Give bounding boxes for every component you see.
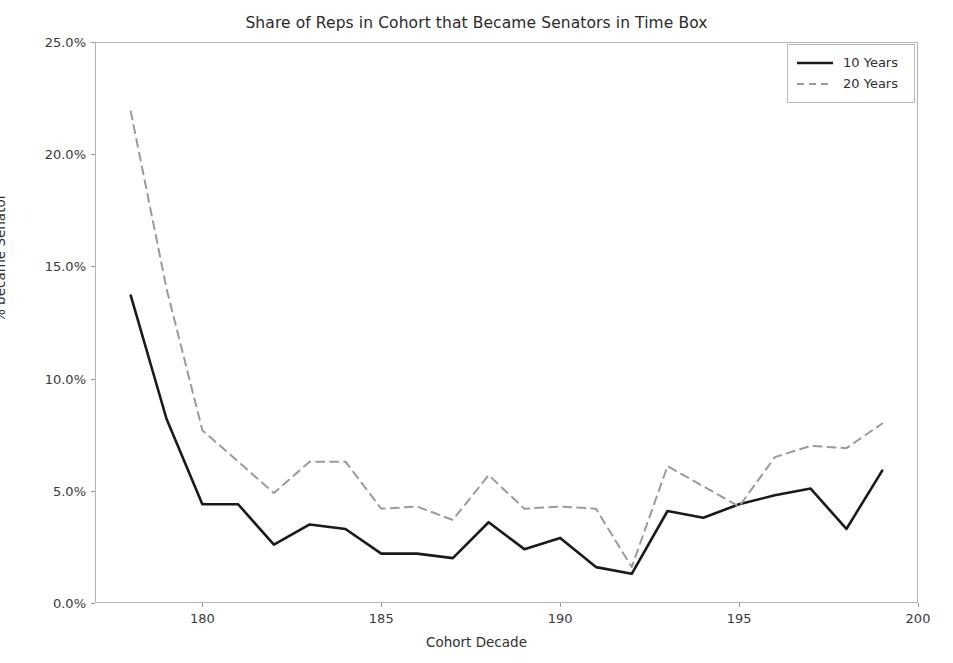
chart-legend: 10 Years 20 Years <box>787 44 915 103</box>
series-line-20-years <box>131 112 882 568</box>
y-tick-mark <box>91 154 95 155</box>
x-tick-mark <box>560 603 561 607</box>
legend-item-20-years[interactable]: 20 Years <box>796 73 906 94</box>
series-line-10-years <box>131 296 882 574</box>
y-tick-label: 10.0% <box>45 371 86 386</box>
y-tick-mark <box>91 266 95 267</box>
y-tick-label: 20.0% <box>45 147 86 162</box>
x-tick-label: 185 <box>369 611 394 626</box>
legend-label-20-years: 20 Years <box>843 76 898 91</box>
x-tick-label: 190 <box>548 611 573 626</box>
y-tick-mark <box>91 491 95 492</box>
plot-area <box>95 42 918 603</box>
x-tick-label: 180 <box>190 611 215 626</box>
y-tick-label: 0.0% <box>53 596 86 611</box>
series-lines <box>95 42 918 603</box>
legend-swatch-solid-icon <box>796 58 834 68</box>
y-axis-label: % became Senator <box>0 194 8 322</box>
x-tick-mark <box>381 603 382 607</box>
x-tick-label: 200 <box>906 611 931 626</box>
x-axis-label: Cohort Decade <box>0 634 953 650</box>
y-tick-label: 5.0% <box>53 483 86 498</box>
legend-swatch-dashed-icon <box>796 79 834 89</box>
x-tick-mark <box>918 603 919 607</box>
legend-label-10-years: 10 Years <box>843 55 898 70</box>
y-tick-label: 25.0% <box>45 35 86 50</box>
x-tick-mark <box>202 603 203 607</box>
y-tick-label: 15.0% <box>45 259 86 274</box>
legend-item-10-years[interactable]: 10 Years <box>796 52 906 73</box>
x-tick-mark <box>739 603 740 607</box>
y-tick-mark <box>91 603 95 604</box>
y-tick-mark <box>91 379 95 380</box>
chart-title: Share of Reps in Cohort that Became Sena… <box>0 14 953 32</box>
chart-figure: Share of Reps in Cohort that Became Sena… <box>0 0 953 663</box>
y-tick-mark <box>91 42 95 43</box>
x-tick-label: 195 <box>727 611 752 626</box>
